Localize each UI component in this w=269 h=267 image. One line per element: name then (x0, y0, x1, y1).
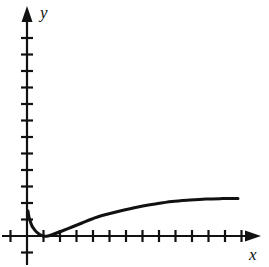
graph-figure: y x (0, 0, 269, 267)
x-axis-label: x (249, 246, 257, 263)
coordinate-plot (0, 0, 269, 267)
function-curve (28, 198, 238, 236)
y-axis-arrowhead (22, 6, 33, 22)
y-axis-label: y (40, 4, 48, 21)
x-axis-arrowhead (245, 231, 261, 242)
